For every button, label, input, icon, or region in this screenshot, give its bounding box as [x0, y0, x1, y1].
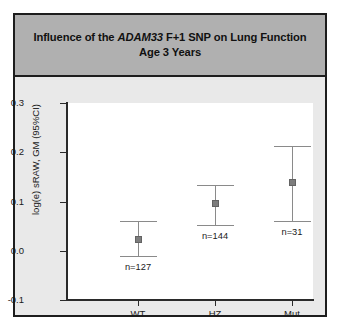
chart-title-gene: ADAM33	[118, 31, 163, 43]
x-tick-mark	[215, 301, 216, 306]
y-tick-mark	[60, 152, 66, 153]
y-tick-mark	[60, 202, 66, 203]
x-axis-line	[66, 299, 314, 301]
whisker-cap-upper	[274, 146, 311, 147]
y-tick-label: 0.3	[11, 97, 24, 108]
plot-panel: log(e) sRAW, GM (95%CI) 0.30.20.10.0-0.1…	[15, 77, 325, 315]
whisker-cap-lower	[274, 221, 311, 222]
whisker-cap-lower	[197, 225, 234, 226]
x-tick-label-wt: WT	[108, 308, 168, 319]
y-tick-mark	[60, 103, 66, 104]
sample-size-label-wt: n=127	[103, 262, 173, 272]
whisker-cap-upper	[120, 221, 157, 222]
y-axis-line	[66, 102, 68, 300]
plot-background	[67, 103, 313, 239]
data-point-marker	[212, 200, 219, 207]
y-tick-label: 0.2	[11, 146, 24, 157]
whisker-cap-upper	[197, 185, 234, 186]
data-point-marker	[289, 179, 296, 186]
x-tick-mark	[292, 301, 293, 306]
chart-title-bar: Influence of the ADAM33 F+1 SNP on Lung …	[15, 15, 325, 77]
sample-size-label-hz: n=144	[180, 231, 250, 241]
sample-size-label-mut: n=31	[257, 227, 327, 237]
whisker-cap-lower	[120, 256, 157, 257]
x-tick-mark	[138, 301, 139, 306]
y-tick-label: -0.1	[8, 294, 24, 305]
chart-title-suffix: F+1 SNP on Lung Function Age 3 Years	[139, 31, 307, 58]
y-tick-mark	[60, 300, 66, 301]
y-tick-label: 0.1	[11, 196, 24, 207]
x-tick-label-mut: Mut	[262, 308, 322, 319]
figure-panel: Influence of the ADAM33 F+1 SNP on Lung …	[13, 13, 327, 317]
x-tick-label-hz: HZ	[185, 308, 245, 319]
chart-title-prefix: Influence of the	[33, 31, 117, 43]
data-point-marker	[135, 236, 142, 243]
y-axis-title: log(e) sRAW, GM (95%CI)	[30, 90, 41, 230]
chart-title: Influence of the ADAM33 F+1 SNP on Lung …	[15, 30, 325, 60]
y-tick-mark	[60, 251, 66, 252]
y-tick-label: 0.0	[11, 245, 24, 256]
